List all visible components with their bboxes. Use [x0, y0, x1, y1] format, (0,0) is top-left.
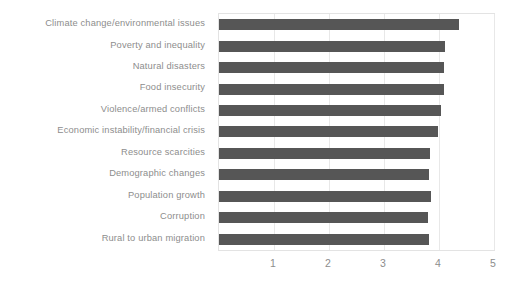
category-label-row: Climate change/environmental issues: [0, 13, 212, 34]
bars-layer: [219, 14, 494, 250]
category-label: Demographic changes: [109, 169, 205, 178]
bar-row: [219, 143, 494, 164]
bar-row: [219, 35, 494, 56]
category-label-row: Resource scarcities: [0, 142, 212, 163]
gridline-5: [494, 14, 495, 250]
category-axis: Climate change/environmental issuesPover…: [0, 13, 212, 249]
bar: [219, 234, 429, 245]
bar-row: [219, 186, 494, 207]
x-tick-label: 2: [325, 258, 331, 269]
bar-row: [219, 100, 494, 121]
bar: [219, 126, 438, 137]
category-label: Resource scarcities: [121, 148, 205, 157]
category-label-row: Rural to urban migration: [0, 228, 212, 249]
category-label-row: Demographic changes: [0, 163, 212, 184]
bar: [219, 212, 428, 223]
bar: [219, 62, 444, 73]
bar: [219, 19, 459, 30]
x-axis: 12345: [218, 251, 495, 277]
category-label: Economic instability/financial crisis: [57, 126, 205, 135]
x-tick-label: 3: [380, 258, 386, 269]
horizontal-bar-chart: Climate change/environmental issuesPover…: [0, 0, 523, 286]
bar: [219, 169, 429, 180]
bar: [219, 105, 441, 116]
category-label: Violence/armed conflicts: [101, 105, 205, 114]
bar: [219, 148, 430, 159]
bar: [219, 191, 431, 202]
category-label: Population growth: [128, 191, 205, 200]
category-label-row: Violence/armed conflicts: [0, 99, 212, 120]
bar-row: [219, 229, 494, 250]
x-tick-label: 1: [270, 258, 276, 269]
bar-row: [219, 121, 494, 142]
bar-row: [219, 57, 494, 78]
bar: [219, 84, 444, 95]
bar-row: [219, 14, 494, 35]
bar-row: [219, 207, 494, 228]
category-label: Rural to urban migration: [102, 234, 205, 243]
category-label: Climate change/environmental issues: [45, 19, 205, 28]
category-label: Poverty and inequality: [110, 41, 205, 50]
bar: [219, 41, 445, 52]
category-label-row: Poverty and inequality: [0, 34, 212, 55]
bar-row: [219, 164, 494, 185]
category-label-row: Corruption: [0, 206, 212, 227]
x-tick-label: 4: [435, 258, 441, 269]
category-label: Corruption: [160, 212, 205, 221]
category-label-row: Natural disasters: [0, 56, 212, 77]
category-label: Food insecurity: [140, 83, 205, 92]
bar-row: [219, 78, 494, 99]
category-label-row: Food insecurity: [0, 77, 212, 98]
category-label-row: Population growth: [0, 185, 212, 206]
category-label: Natural disasters: [133, 62, 205, 71]
category-label-row: Economic instability/financial crisis: [0, 120, 212, 141]
plot-area: [218, 13, 495, 251]
x-tick-label: 5: [490, 258, 496, 269]
